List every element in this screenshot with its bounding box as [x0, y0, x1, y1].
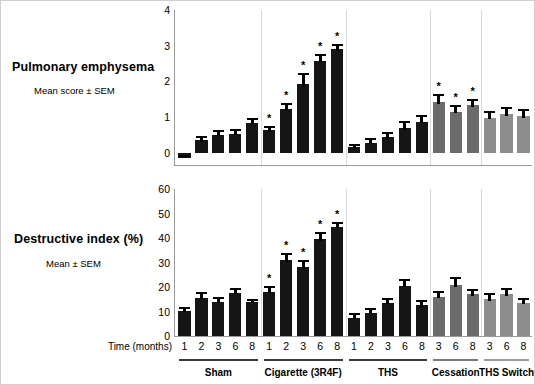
x-tick-label: 8 — [521, 341, 527, 352]
x-tick-label: 8 — [470, 341, 476, 352]
x-tick-label: 3 — [385, 341, 391, 352]
x-tick-label: 6 — [402, 341, 408, 352]
x-tick-label: 1 — [266, 341, 272, 352]
group-bracket — [179, 359, 258, 361]
figure-root: Pulmonary emphysema Mean score ± SEM Des… — [0, 0, 535, 385]
x-tick-label: 3 — [436, 341, 442, 352]
group-bracket — [433, 359, 478, 361]
x-tick-label: 8 — [334, 341, 340, 352]
x-tick-label: 6 — [232, 341, 238, 352]
x-tick-label: 8 — [249, 341, 255, 352]
x-axis-layer: 123681236812368368368ShamCigarette (3R4F… — [0, 0, 535, 385]
x-tick-label: 6 — [453, 341, 459, 352]
x-tick-label: 3 — [300, 341, 306, 352]
group-label: Sham — [205, 368, 232, 378]
x-tick-label: 2 — [283, 341, 289, 352]
group-bracket — [484, 359, 529, 361]
group-label: Cessation — [432, 368, 480, 378]
x-tick-label: 1 — [351, 341, 357, 352]
group-bracket — [264, 359, 343, 361]
x-tick-label: 3 — [487, 341, 493, 352]
x-tick-label: 8 — [419, 341, 425, 352]
group-label: THS — [378, 368, 398, 378]
x-tick-label: 6 — [504, 341, 510, 352]
group-bracket — [349, 359, 428, 361]
x-tick-label: 3 — [215, 341, 221, 352]
x-tick-label: 6 — [317, 341, 323, 352]
group-label: Cigarette (3R4F) — [265, 368, 342, 378]
group-label: THS Switch — [479, 368, 534, 378]
x-tick-label: 1 — [182, 341, 188, 352]
x-tick-label: 2 — [368, 341, 374, 352]
x-tick-label: 2 — [199, 341, 205, 352]
